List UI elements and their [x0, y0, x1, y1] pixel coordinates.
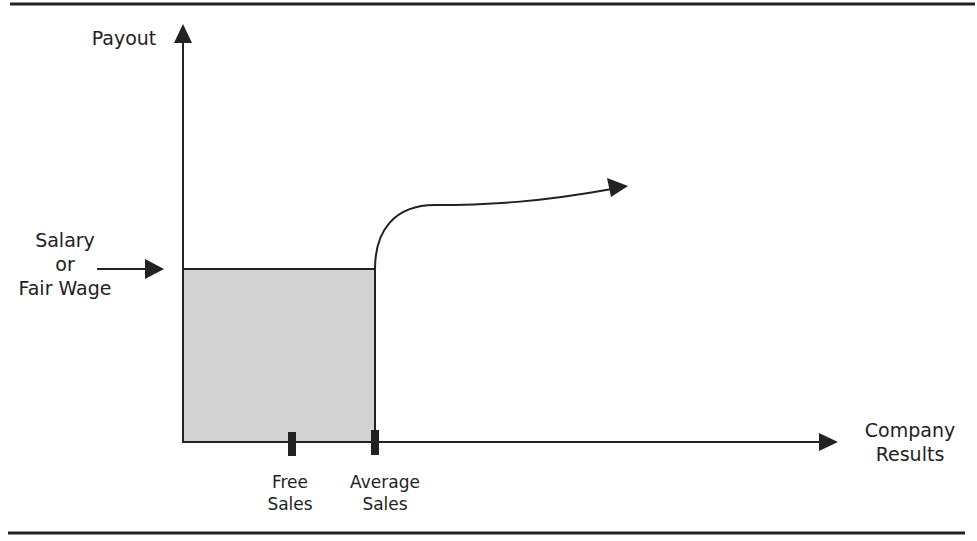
- tick-average-sales: [371, 430, 379, 455]
- payout-diagram: [0, 0, 977, 541]
- payout-curve: [375, 189, 612, 269]
- salary-arrow-icon: [145, 259, 164, 279]
- salary-label-line3: Fair Wage: [10, 276, 120, 300]
- x-axis-label-line1: Company: [850, 418, 970, 442]
- y-axis-arrow-icon: [174, 24, 192, 43]
- salary-label: Salary or Fair Wage: [10, 228, 120, 300]
- curve-arrow-icon: [607, 178, 628, 197]
- salary-label-line1: Salary: [10, 228, 120, 252]
- tick-free-sales: [288, 432, 296, 456]
- y-axis-label: Payout: [84, 26, 164, 50]
- salary-label-line2: or: [10, 252, 120, 276]
- x-axis-arrow-icon: [819, 433, 838, 451]
- tick1-label-line2: Sales: [250, 493, 330, 515]
- tick2-label-line2: Sales: [338, 493, 432, 515]
- tick1-label-line1: Free: [250, 471, 330, 493]
- tick1-label: Free Sales: [250, 471, 330, 515]
- tick2-label: Average Sales: [338, 471, 432, 515]
- x-axis-label: Company Results: [850, 418, 970, 466]
- tick2-label-line1: Average: [338, 471, 432, 493]
- x-axis-label-line2: Results: [850, 442, 970, 466]
- salary-region: [183, 269, 375, 442]
